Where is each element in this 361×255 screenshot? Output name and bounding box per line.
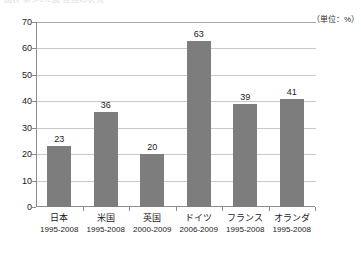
y-axis-tick-label: 70 [8, 18, 32, 27]
x-axis-category: 英国2000-2009 [129, 212, 176, 235]
y-axis-tick-label: 20 [8, 150, 32, 159]
x-axis-category: フランス1995-2008 [222, 212, 269, 235]
x-axis-tick-mark [315, 207, 316, 211]
x-axis-category-name: 英国 [129, 212, 176, 224]
y-axis-tick-label: 0 [8, 203, 32, 212]
y-axis-tick-label: 40 [8, 97, 32, 106]
bar-slot: 20 [129, 22, 176, 207]
bar[interactable] [47, 146, 71, 207]
x-axis-category-name: 米国 [83, 212, 130, 224]
bar-slot: 36 [83, 22, 130, 207]
bar-slot: 41 [269, 22, 316, 207]
bar-value-label: 63 [194, 30, 204, 39]
x-axis-category-name: ドイツ [176, 212, 223, 224]
bars-group: 233620633941 [36, 22, 315, 207]
bar[interactable] [94, 112, 118, 207]
x-axis-category-period: 1995-2008 [36, 224, 83, 235]
bar-chart: （単位：%） 010203040506070 233620633941 日本19… [0, 0, 361, 255]
bar-slot: 23 [36, 22, 83, 207]
x-axis-category-period: 2006-2009 [176, 224, 223, 235]
bar[interactable] [280, 99, 304, 207]
x-axis-tick-mark [129, 207, 130, 211]
bar-slot: 39 [222, 22, 269, 207]
x-axis-category-name: オランダ [269, 212, 316, 224]
y-axis-tick-mark [32, 207, 36, 208]
bar-value-label: 23 [54, 135, 64, 144]
unit-label: （単位：%） [312, 13, 359, 24]
y-axis-tick-label: 60 [8, 44, 32, 53]
y-axis-tick-label: 50 [8, 71, 32, 80]
y-axis-tick-label: 10 [8, 177, 32, 186]
bar-slot: 63 [176, 22, 223, 207]
x-axis-category-period: 1995-2008 [222, 224, 269, 235]
x-axis-category-name: フランス [222, 212, 269, 224]
x-axis-category: ドイツ2006-2009 [176, 212, 223, 235]
bar-value-label: 20 [147, 143, 157, 152]
x-axis-category-period: 1995-2008 [269, 224, 316, 235]
y-axis-tick-label: 30 [8, 124, 32, 133]
x-axis-tick-mark [176, 207, 177, 211]
bar-value-label: 39 [240, 93, 250, 102]
bar[interactable] [140, 154, 164, 207]
x-axis-category-period: 1995-2008 [83, 224, 130, 235]
bar[interactable] [233, 104, 257, 207]
x-axis-tick-mark [83, 207, 84, 211]
x-axis-category: 米国1995-2008 [83, 212, 130, 235]
x-axis-category: オランダ1995-2008 [269, 212, 316, 235]
x-axis-category-period: 2000-2009 [129, 224, 176, 235]
bar-value-label: 41 [287, 88, 297, 97]
x-axis-tick-mark [222, 207, 223, 211]
bar-value-label: 36 [101, 101, 111, 110]
x-axis-category-name: 日本 [36, 212, 83, 224]
x-axis-tick-mark [269, 207, 270, 211]
x-axis-category: 日本1995-2008 [36, 212, 83, 235]
bar[interactable] [187, 41, 211, 208]
